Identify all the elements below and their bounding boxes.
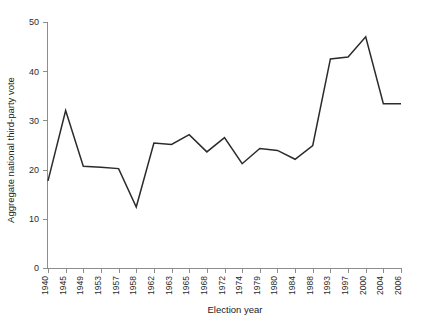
axes-group bbox=[48, 22, 403, 269]
x-tick-label: 1997 bbox=[340, 276, 350, 295]
x-tick-label: 1974 bbox=[234, 276, 244, 295]
x-tick-label: 1940 bbox=[40, 276, 50, 295]
y-tick-label: 50 bbox=[29, 17, 39, 27]
x-tick-label: 2006 bbox=[393, 276, 403, 295]
x-tick-label: 2000 bbox=[358, 276, 368, 295]
x-tick-label: 2004 bbox=[375, 276, 385, 295]
chart-figure: 01020304050 1940194519491953195719581962… bbox=[0, 0, 422, 324]
x-tick-label: 1968 bbox=[199, 276, 209, 295]
x-tick-label: 1979 bbox=[252, 276, 262, 295]
y-axis-title: Aggregate national third-party vote bbox=[5, 77, 16, 223]
x-tick-label: 1962 bbox=[146, 276, 156, 295]
x-tick-label: 1945 bbox=[58, 276, 68, 295]
x-tick-label: 1949 bbox=[75, 276, 85, 295]
x-tick-label: 1984 bbox=[287, 276, 297, 295]
x-tick-label: 1958 bbox=[128, 276, 138, 295]
x-tick-label: 1980 bbox=[269, 276, 279, 295]
y-tick-label: 40 bbox=[29, 67, 39, 77]
y-ticks-group: 01020304050 bbox=[29, 17, 48, 273]
x-axis-title: Election year bbox=[208, 304, 263, 315]
y-tick-label: 0 bbox=[34, 263, 39, 273]
x-tick-label: 1963 bbox=[164, 276, 174, 295]
x-tick-label: 1993 bbox=[322, 276, 332, 295]
y-tick-label: 20 bbox=[29, 165, 39, 175]
x-tick-label: 1953 bbox=[93, 276, 103, 295]
series-group bbox=[48, 37, 401, 207]
x-tick-label: 1972 bbox=[217, 276, 227, 295]
x-tick-label: 1965 bbox=[181, 276, 191, 295]
x-tick-label: 1988 bbox=[305, 276, 315, 295]
x-ticks-group: 1940194519491953195719581962196319651968… bbox=[40, 269, 403, 295]
y-tick-label: 10 bbox=[29, 214, 39, 224]
third-party-vote-line bbox=[48, 37, 401, 207]
x-tick-label: 1957 bbox=[111, 276, 121, 295]
line-chart-plot: 01020304050 1940194519491953195719581962… bbox=[0, 0, 422, 324]
y-tick-label: 30 bbox=[29, 116, 39, 126]
